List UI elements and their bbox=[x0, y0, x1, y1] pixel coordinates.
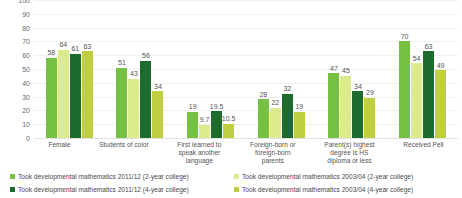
bar-value-label: 19.5 bbox=[210, 103, 224, 110]
bar-group: 51435634 bbox=[116, 0, 163, 138]
bar bbox=[423, 51, 434, 138]
bar-value-label: 49 bbox=[437, 62, 445, 69]
bar-value-label: 19 bbox=[189, 103, 197, 110]
bar bbox=[340, 76, 351, 138]
x-axis-category-label: First learned tospeak anotherlanguage bbox=[177, 139, 221, 170]
bar bbox=[352, 91, 363, 138]
bar bbox=[223, 124, 234, 138]
bar bbox=[70, 54, 81, 138]
legend-label: Took developmental mathematics 2003/04 (… bbox=[242, 173, 413, 181]
y-axis-tick-label: 50 bbox=[22, 66, 30, 73]
bar bbox=[282, 94, 293, 138]
bar-slot: 19 bbox=[187, 0, 198, 138]
bar-slot: 49 bbox=[435, 0, 446, 138]
x-axis-category-labels: FemaleStudents of colorFirst learned tos… bbox=[34, 139, 458, 170]
legend-swatch-icon bbox=[10, 187, 15, 192]
bar-group: 58646163 bbox=[46, 0, 93, 138]
x-axis-category-label: Students of color bbox=[99, 139, 148, 170]
legend-swatch-icon bbox=[234, 174, 239, 179]
bar bbox=[82, 51, 93, 138]
bar-value-label: 22 bbox=[271, 99, 279, 106]
bar-value-label: 51 bbox=[118, 59, 126, 66]
legend-item[interactable]: Took developmental mathematics 2011/12 (… bbox=[10, 173, 234, 181]
y-axis: 1009080706050403020100 bbox=[0, 0, 34, 160]
bar bbox=[211, 111, 222, 138]
legend-item[interactable]: Took developmental mathematics 2003/04 (… bbox=[234, 173, 456, 181]
bar-value-label: 63 bbox=[83, 43, 91, 50]
bar-value-label: 58 bbox=[47, 49, 55, 56]
bar-slot: 32 bbox=[282, 0, 293, 138]
plot-area: 1009080706050403020100 58646163514356341… bbox=[0, 0, 462, 160]
bar-value-label: 34 bbox=[154, 83, 162, 90]
developmental-mathematics-bar-chart: 1009080706050403020100 58646163514356341… bbox=[0, 0, 462, 198]
bar-group: 28223219 bbox=[258, 0, 305, 138]
bar bbox=[46, 58, 57, 138]
y-axis-tick-label: 10 bbox=[22, 121, 30, 128]
legend-item[interactable]: Took developmental mathematics 2003/04 (… bbox=[234, 186, 456, 194]
legend-swatch-icon bbox=[234, 187, 239, 192]
bar-slot: 63 bbox=[423, 0, 434, 138]
bar-value-label: 47 bbox=[330, 65, 338, 72]
bar-value-label: 10.5 bbox=[222, 115, 236, 122]
bar-slot: 63 bbox=[82, 0, 93, 138]
bar-value-label: 56 bbox=[142, 52, 150, 59]
bar-slot: 56 bbox=[140, 0, 151, 138]
bar-slot: 29 bbox=[364, 0, 375, 138]
bar bbox=[399, 41, 410, 138]
bar-slot: 54 bbox=[411, 0, 422, 138]
x-axis-category-label: Foreign-born orforeign-bornparents bbox=[250, 139, 295, 170]
x-axis-category-label: Parent(s) highestdegree is HSdiploma or … bbox=[324, 139, 374, 170]
bar-group: 47453429 bbox=[328, 0, 375, 138]
plot-canvas: 5864616351435634199.719.510.528223219474… bbox=[34, 0, 458, 138]
legend-label: Took developmental mathematics 2011/12 (… bbox=[18, 186, 189, 194]
bar-group: 70546349 bbox=[399, 0, 446, 138]
bar-value-label: 28 bbox=[259, 91, 267, 98]
y-axis-tick-label: 40 bbox=[22, 79, 30, 86]
bar-group: 199.719.510.5 bbox=[187, 0, 234, 138]
bar-slot: 34 bbox=[352, 0, 363, 138]
y-axis-tick-label: 70 bbox=[22, 38, 30, 45]
bar-value-label: 70 bbox=[401, 33, 409, 40]
chart-legend: Took developmental mathematics 2011/12 (… bbox=[10, 170, 456, 196]
bar bbox=[128, 79, 139, 138]
bar-slot: 51 bbox=[116, 0, 127, 138]
bar bbox=[116, 68, 127, 138]
bar-slot: 64 bbox=[58, 0, 69, 138]
legend-label: Took developmental mathematics 2011/12 (… bbox=[18, 173, 189, 181]
y-axis-tick-label: 100 bbox=[18, 0, 30, 4]
legend-swatch-icon bbox=[10, 174, 15, 179]
x-axis-category-label: Female bbox=[48, 139, 70, 170]
bar-slot: 34 bbox=[152, 0, 163, 138]
bar bbox=[187, 112, 198, 138]
bar-slot: 70 bbox=[399, 0, 410, 138]
bar bbox=[411, 63, 422, 138]
bar-slot: 61 bbox=[70, 0, 81, 138]
bar bbox=[328, 73, 339, 138]
bar-value-label: 34 bbox=[354, 83, 362, 90]
y-axis-tick-label: 0 bbox=[26, 135, 30, 142]
y-axis-tick-label: 90 bbox=[22, 10, 30, 17]
y-axis-tick-label: 20 bbox=[22, 107, 30, 114]
bar-slot: 28 bbox=[258, 0, 269, 138]
bar bbox=[199, 125, 210, 138]
bar bbox=[435, 70, 446, 138]
bar-slot: 47 bbox=[328, 0, 339, 138]
bar-groups: 5864616351435634199.719.510.528223219474… bbox=[34, 0, 458, 138]
bar-slot: 19 bbox=[294, 0, 305, 138]
bar-value-label: 19 bbox=[295, 103, 303, 110]
bar bbox=[364, 98, 375, 138]
bar-slot: 58 bbox=[46, 0, 57, 138]
bar-value-label: 45 bbox=[342, 67, 350, 74]
bar bbox=[152, 91, 163, 138]
bar-value-label: 9.7 bbox=[200, 116, 210, 123]
bar bbox=[258, 99, 269, 138]
bar-value-label: 54 bbox=[413, 55, 421, 62]
bar bbox=[270, 108, 281, 138]
y-axis-tick-label: 80 bbox=[22, 24, 30, 31]
bar-slot: 10.5 bbox=[223, 0, 234, 138]
bar bbox=[140, 61, 151, 138]
bar-value-label: 64 bbox=[59, 41, 67, 48]
legend-item[interactable]: Took developmental mathematics 2011/12 (… bbox=[10, 186, 234, 194]
bar-slot: 22 bbox=[270, 0, 281, 138]
bar-slot: 19.5 bbox=[211, 0, 222, 138]
